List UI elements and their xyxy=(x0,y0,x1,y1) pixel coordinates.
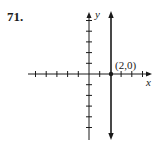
x-axis xyxy=(28,71,152,77)
y-axis-label: y xyxy=(94,8,100,20)
y-axis xyxy=(86,12,92,140)
point-marker xyxy=(109,72,113,76)
x-axis-label: x xyxy=(145,76,151,88)
point-label: (2,0) xyxy=(115,59,136,72)
coordinate-graph: (2,0) y x xyxy=(0,0,160,147)
